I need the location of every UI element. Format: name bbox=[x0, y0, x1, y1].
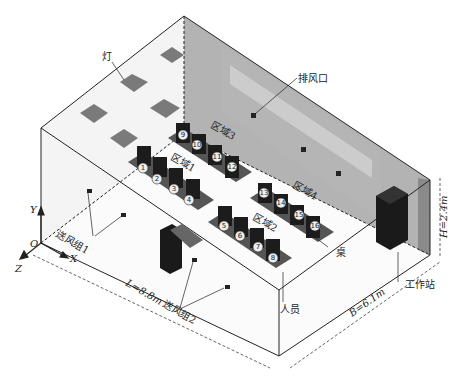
svg-text:16: 16 bbox=[311, 222, 320, 230]
room-diagram: 1 2 3 4 5 6 7 8 9 10 11 12 13 14 15 16 bbox=[0, 0, 451, 378]
workstation bbox=[376, 186, 408, 250]
svg-text:10: 10 bbox=[193, 141, 202, 149]
svg-text:Y: Y bbox=[30, 204, 38, 215]
svg-text:排风口: 排风口 bbox=[298, 72, 328, 84]
svg-text:5: 5 bbox=[222, 222, 226, 230]
svg-text:12: 12 bbox=[228, 163, 237, 171]
svg-text:O: O bbox=[30, 238, 38, 249]
svg-text:14: 14 bbox=[277, 199, 286, 207]
svg-text:Z: Z bbox=[14, 263, 23, 274]
svg-text:8: 8 bbox=[271, 254, 275, 262]
svg-text:4: 4 bbox=[187, 196, 192, 204]
svg-text:6: 6 bbox=[238, 232, 243, 240]
svg-text:灯: 灯 bbox=[102, 51, 112, 62]
svg-text:工作站: 工作站 bbox=[405, 278, 435, 290]
svg-text:桌: 桌 bbox=[336, 246, 346, 258]
svg-text:9: 9 bbox=[181, 131, 185, 139]
exhaust-vent bbox=[336, 171, 341, 176]
svg-text:7: 7 bbox=[256, 243, 260, 251]
exhaust-vent bbox=[301, 147, 306, 152]
svg-text:2: 2 bbox=[155, 175, 159, 183]
svg-text:3: 3 bbox=[172, 185, 176, 193]
svg-text:X: X bbox=[69, 253, 78, 264]
svg-text:13: 13 bbox=[260, 189, 269, 197]
svg-text:1: 1 bbox=[141, 164, 145, 172]
svg-text:15: 15 bbox=[295, 211, 304, 219]
svg-text:11: 11 bbox=[213, 153, 222, 161]
svg-text:H=2.4m: H=2.4m bbox=[438, 196, 449, 240]
svg-text:人员: 人员 bbox=[280, 304, 300, 315]
